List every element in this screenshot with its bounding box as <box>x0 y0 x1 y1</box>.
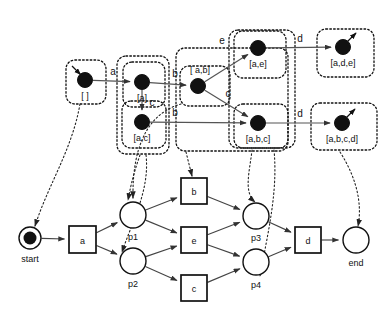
pn-transition-t_e: e <box>181 227 207 253</box>
rg-state-dot-s3 <box>191 79 206 94</box>
pn-arc-p1-t_e <box>145 220 176 233</box>
rg-state-label-s0: [ ] <box>81 91 89 101</box>
rg-arc-s4-s6 <box>266 47 331 48</box>
rg-arc-label-a-s0: a <box>110 66 116 77</box>
pn-arc-p1-t_b <box>146 198 177 210</box>
pn-place-p1: p1 <box>120 202 146 242</box>
rg-state-dot-s4 <box>251 41 266 56</box>
pn-place-label-p4: p4 <box>251 280 261 290</box>
pn-place-label-start: start <box>21 254 39 264</box>
rg-state-label-s6: [a,d,e] <box>330 58 355 68</box>
rg-state-dot-s6 <box>336 40 351 55</box>
pn-transition-label-t_d: d <box>305 236 310 246</box>
rg-state-s2: [a,c] <box>133 115 150 144</box>
rg-state-s6: [a,d,e] <box>330 33 356 68</box>
pn-token-start <box>24 232 37 245</box>
petri-node-group: startp1p2p3p4endabecd <box>19 178 369 301</box>
rg-state-dot-s2 <box>135 115 150 130</box>
pn-arc-p4-t_d <box>268 247 290 256</box>
pn-arc-p2-t_c <box>145 266 177 280</box>
pn-place-label-p1: p1 <box>128 232 138 242</box>
mapping-link-abc-p3 <box>248 150 255 202</box>
rg-state-label-s7: [a,b,c,d] <box>326 134 358 144</box>
pn-place-p3: p3 <box>243 203 269 243</box>
pn-arc-t_a-p1 <box>96 223 117 233</box>
pn-place-circle-p2 <box>120 248 146 274</box>
rg-state-s0: [ ] <box>72 66 93 101</box>
pn-arc-t_e-p3 <box>207 222 239 234</box>
rg-state-s5: [a,b,c] <box>246 116 271 145</box>
pn-arc-t_c-p4 <box>207 269 239 283</box>
pn-transition-label-t_b: b <box>191 187 196 197</box>
pn-place-end: end <box>343 227 369 268</box>
pn-place-label-p2: p2 <box>128 279 138 289</box>
region-box-r-b-all <box>176 48 288 151</box>
rg-initial-arrow <box>72 66 81 75</box>
pn-arc-t_b-p3 <box>207 196 239 209</box>
pn-arc-p3-t_d <box>268 222 291 232</box>
rg-state-label-s4: [a,e] <box>249 59 267 69</box>
rg-state-dot-s1 <box>135 75 150 90</box>
pn-arc-t_e-p4 <box>207 245 239 256</box>
pn-place-circle-p4 <box>243 249 269 275</box>
rg-state-s3: [ a,b] <box>190 65 210 94</box>
pn-arc-p2-t_e <box>146 246 177 257</box>
diagram-canvas: abcbecdd [ ][a][a,c][ a,b][a,e][a,b,c][a… <box>0 0 383 313</box>
mapping-link-b-top <box>186 152 192 176</box>
rg-arc-s0-s1 <box>93 80 130 81</box>
rg-arc-label-b-s1: b <box>172 68 178 79</box>
rg-arc-label-c-s1: c <box>150 97 155 108</box>
rg-state-label-s1: [a] <box>137 93 147 103</box>
rg-arc-label-d-s4: d <box>297 33 303 44</box>
pn-place-start: start <box>19 227 41 264</box>
rg-state-label-s5: [a,b,c] <box>246 134 271 144</box>
pn-place-circle-p1 <box>120 202 146 228</box>
pn-arc-start-t_a <box>41 238 64 239</box>
pn-transition-label-t_c: c <box>192 284 197 294</box>
pn-place-label-p3: p3 <box>251 233 261 243</box>
reachability-state-group: [ ][a][a,c][ a,b][a,e][a,b,c][a,d,e][a,b… <box>72 33 358 144</box>
rg-state-dot-s5 <box>251 116 266 131</box>
pn-place-circle-p3 <box>243 203 269 229</box>
rg-state-dot-s7 <box>335 116 350 131</box>
rg-arc-label-c-s3: c <box>226 88 231 99</box>
pn-arc-t_a-p2 <box>96 245 116 254</box>
rg-state-s7: [a,b,c,d] <box>326 109 358 144</box>
pn-place-p4: p4 <box>243 249 269 290</box>
figure-root: abcbecdd [ ][a][a,c][ a,b][a,e][a,b,c][a… <box>0 0 383 313</box>
rg-arc-label-e-s3: e <box>219 35 225 46</box>
rg-state-label-s2: [a,c] <box>133 133 150 143</box>
rg-state-s1: [a] <box>135 75 150 104</box>
rg-arc-label-d-s5: d <box>297 108 303 119</box>
mapping-link-empty-start <box>35 104 80 226</box>
pn-transition-t_d: d <box>295 227 321 253</box>
pn-transition-t_b: b <box>181 178 207 204</box>
rg-state-s4: [a,e] <box>249 41 267 70</box>
rg-state-label-s3: [ a,b] <box>190 65 210 75</box>
rg-final-arrow <box>347 109 356 118</box>
pn-transition-t_c: c <box>181 275 207 301</box>
pn-place-label-end: end <box>348 258 363 268</box>
rg-final-arrow <box>348 33 357 42</box>
mapping-link-abcd-end <box>340 152 359 226</box>
pn-transition-label-t_a: a <box>80 236 85 246</box>
rg-state-dot-s0 <box>78 73 93 88</box>
rg-arc-label-b-s2: b <box>172 107 178 118</box>
pn-place-p2: p2 <box>120 248 146 289</box>
pn-place-circle-end <box>343 227 369 253</box>
rg-arc-s2-s5 <box>150 122 246 123</box>
pn-transition-label-t_e: e <box>191 236 196 246</box>
pn-transition-t_a: a <box>69 226 96 253</box>
